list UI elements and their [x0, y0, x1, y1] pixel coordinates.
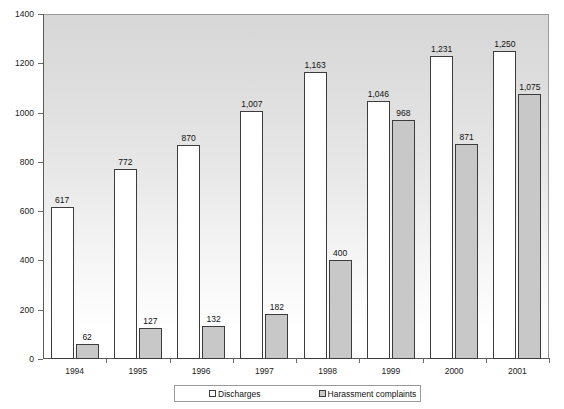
x-axis-tick: [233, 359, 234, 363]
x-axis-tick: [170, 359, 171, 363]
y-axis-tick-label: 200: [20, 305, 34, 314]
y-axis-tick: [38, 260, 43, 261]
y-axis-tick: [38, 63, 43, 64]
x-axis-tick: [359, 359, 360, 363]
x-axis-category-label: 2000: [445, 366, 464, 376]
bar-1999-discharges: [367, 101, 390, 359]
bar-1994-discharges: [51, 207, 74, 359]
x-axis-category-label: 2001: [508, 366, 527, 376]
bar-1998-discharges: [304, 72, 327, 359]
legend-label: Discharges: [218, 389, 261, 399]
bar-1996-harassment-complaints: [202, 326, 225, 359]
bar-value-label: 1,163: [304, 61, 325, 70]
bar-1995-harassment-complaints: [139, 328, 162, 359]
bar-value-label: 1,046: [368, 90, 389, 99]
legend-label: Harassment complaints: [328, 389, 417, 399]
bar-1999-harassment-complaints: [392, 120, 415, 359]
bar-value-label: 400: [333, 249, 347, 258]
bar-value-label: 182: [270, 303, 284, 312]
x-axis-tick: [486, 359, 487, 363]
bar-1998-harassment-complaints: [329, 260, 352, 359]
bar-value-label: 870: [182, 134, 196, 143]
y-axis-tick-label: 800: [20, 158, 34, 167]
y-axis-tick: [38, 359, 43, 360]
bar-value-label: 871: [460, 133, 474, 142]
x-axis-tick: [549, 359, 550, 363]
chart-legend: Discharges Harassment complaints: [174, 385, 421, 402]
y-axis-tick: [38, 14, 43, 15]
y-axis-tick-label: 400: [20, 256, 34, 265]
bar-2000-harassment-complaints: [455, 144, 478, 359]
bar-value-label: 1,007: [241, 100, 262, 109]
legend-item-discharges: Discharges: [209, 389, 261, 399]
x-axis-category-label: 1999: [381, 366, 400, 376]
bar-1995-discharges: [114, 169, 137, 359]
x-axis-category-label: 1996: [192, 366, 211, 376]
y-axis-tick-label: 0: [29, 355, 34, 364]
bar-value-label: 968: [396, 109, 410, 118]
x-axis-tick: [106, 359, 107, 363]
x-axis-category-label: 1998: [318, 366, 337, 376]
y-axis-tick: [38, 310, 43, 311]
y-axis-tick-label: 1400: [15, 10, 34, 19]
y-axis-tick: [38, 113, 43, 114]
legend-item-harassment-complaints: Harassment complaints: [319, 389, 417, 399]
bar-value-label: 772: [118, 158, 132, 167]
bar-value-label: 617: [55, 196, 69, 205]
x-axis-category-label: 1995: [128, 366, 147, 376]
bar-value-label: 1,250: [494, 40, 515, 49]
y-axis-line: [43, 14, 44, 359]
y-axis-tick-label: 600: [20, 207, 34, 216]
y-axis-tick: [38, 211, 43, 212]
bar-2000-discharges: [430, 56, 453, 359]
x-axis-category-label: 1997: [255, 366, 274, 376]
bar-value-label: 62: [82, 333, 91, 342]
x-axis-category-label: 1994: [65, 366, 84, 376]
bar-1994-harassment-complaints: [76, 344, 99, 359]
bar-1996-discharges: [177, 145, 200, 359]
legend-swatch-icon: [209, 390, 216, 397]
y-axis-tick-label: 1200: [15, 59, 34, 68]
y-axis-tick-label: 1000: [15, 108, 34, 117]
bar-value-label: 1,075: [519, 83, 540, 92]
bar-chart: 0200400600800100012001400 61762772127870…: [0, 0, 564, 409]
bar-1997-discharges: [240, 111, 263, 359]
bar-value-label: 132: [207, 315, 221, 324]
legend-swatch-icon: [319, 390, 326, 397]
x-axis-tick: [423, 359, 424, 363]
bar-value-label: 1,231: [431, 45, 452, 54]
bar-value-label: 127: [143, 317, 157, 326]
y-axis-tick: [38, 162, 43, 163]
bar-2001-discharges: [493, 51, 516, 359]
bar-2001-harassment-complaints: [518, 94, 541, 359]
bar-1997-harassment-complaints: [265, 314, 288, 359]
x-axis-tick: [296, 359, 297, 363]
